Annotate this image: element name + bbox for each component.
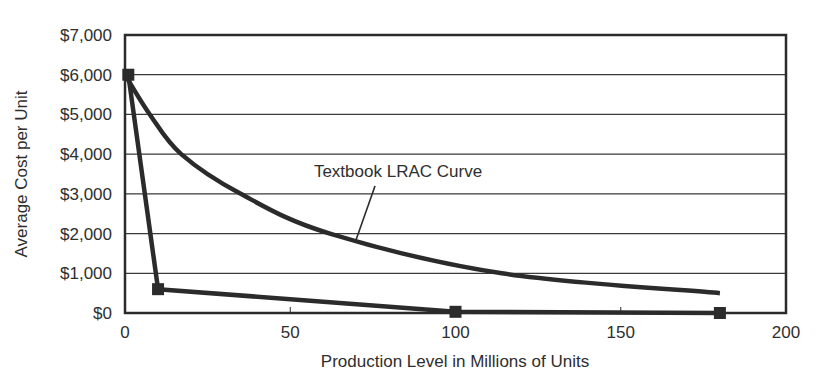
x-axis-title: Production Level in Millions of Units <box>321 352 589 371</box>
x-tick-label: 50 <box>281 323 300 342</box>
x-tick-label: 0 <box>120 323 129 342</box>
y-tick-label: $5,000 <box>60 105 112 124</box>
lrac-curve <box>125 75 720 293</box>
y-tick-label: $2,000 <box>60 225 112 244</box>
annotation-layer: Textbook LRAC Curve <box>314 162 482 240</box>
x-tick-label: 200 <box>772 323 800 342</box>
square-marker <box>122 69 134 81</box>
y-tick-label: $6,000 <box>60 66 112 85</box>
y-axis-tick-labels: $0$1,000$2,000$3,000$4,000$5,000$6,000$7… <box>60 26 112 323</box>
y-tick-label: $3,000 <box>60 185 112 204</box>
chart: $0$1,000$2,000$3,000$4,000$5,000$6,000$7… <box>0 0 818 376</box>
y-tick-label: $4,000 <box>60 145 112 164</box>
square-marker <box>714 307 726 319</box>
y-tick-label: $1,000 <box>60 264 112 283</box>
lrac-annotation-label: Textbook LRAC Curve <box>314 162 482 181</box>
y-axis-title: Average Cost per Unit <box>12 90 31 257</box>
x-tick-label: 150 <box>607 323 635 342</box>
square-marker <box>450 306 462 318</box>
square-marker <box>152 283 164 295</box>
y-tick-label: $7,000 <box>60 26 112 45</box>
y-tick-label: $0 <box>93 304 112 323</box>
x-tick-label: 100 <box>441 323 469 342</box>
x-axis-tick-labels: 050100150200 <box>120 323 800 342</box>
